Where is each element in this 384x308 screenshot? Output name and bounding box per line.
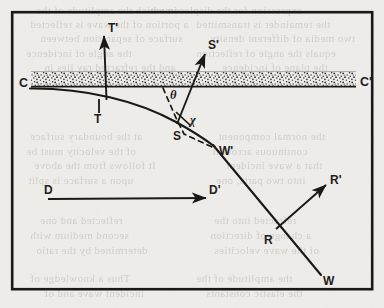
label-s-prime: S' xyxy=(208,38,219,52)
label-t-prime: T' xyxy=(108,21,118,35)
figure-frame xyxy=(12,12,372,289)
label-d-prime: D' xyxy=(209,183,221,197)
label-r-prime: R' xyxy=(330,173,342,187)
label-w-prime: W' xyxy=(219,144,233,158)
ray-line xyxy=(213,145,321,275)
figure-canvas: C C' T' T S' S W' R' R W D D' θ χ xyxy=(0,0,384,308)
label-c: C xyxy=(19,76,28,90)
t-prime-arrow xyxy=(104,36,107,100)
label-r: R xyxy=(264,233,273,247)
label-angle-theta: θ xyxy=(170,88,177,102)
label-t: T xyxy=(94,112,102,126)
r-prime-arrow xyxy=(276,185,326,229)
d-arrow xyxy=(48,198,206,199)
label-angle-chi: χ xyxy=(188,113,197,127)
label-w: W xyxy=(323,274,335,288)
label-c-prime: C' xyxy=(360,75,372,89)
label-s: S xyxy=(173,129,181,143)
label-d: D xyxy=(44,183,53,197)
